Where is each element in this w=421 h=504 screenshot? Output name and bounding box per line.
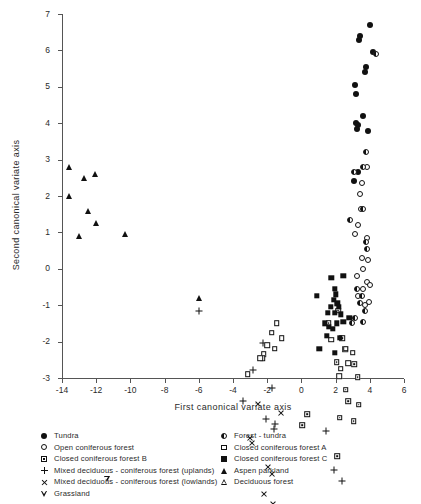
open-circle-icon bbox=[38, 443, 50, 452]
legend-item: Closed coniferous forest B bbox=[38, 453, 234, 465]
data-point bbox=[122, 231, 128, 237]
legend: TundraOpen coniferous forestClosed conif… bbox=[30, 430, 421, 504]
y-tick bbox=[58, 269, 62, 270]
data-point bbox=[338, 366, 344, 372]
data-point bbox=[373, 51, 379, 57]
x-tick-label: 4 bbox=[357, 386, 383, 395]
data-point bbox=[271, 420, 278, 427]
y-tick bbox=[58, 232, 62, 233]
data-point bbox=[346, 361, 352, 367]
data-point bbox=[337, 415, 343, 421]
y-tick bbox=[58, 123, 62, 124]
data-point bbox=[272, 346, 278, 352]
y-tick-label: 3 bbox=[28, 155, 50, 164]
data-points-layer bbox=[0, 0, 421, 323]
y-tick-label: -1 bbox=[28, 301, 50, 310]
y-tick-label: 6 bbox=[28, 46, 50, 55]
data-point bbox=[351, 419, 357, 425]
y-tick-label: 5 bbox=[28, 82, 50, 91]
data-point bbox=[85, 208, 91, 214]
data-point bbox=[274, 321, 280, 327]
data-point bbox=[245, 372, 251, 378]
data-point bbox=[336, 373, 342, 379]
data-point bbox=[353, 91, 359, 97]
open-tri-down-icon bbox=[38, 489, 50, 498]
y-tick-label: 2 bbox=[28, 192, 50, 201]
legend-item: Grassland bbox=[38, 488, 234, 500]
data-point bbox=[367, 282, 373, 288]
x-tick-label: -4 bbox=[220, 386, 246, 395]
legend-item-label: Tundra bbox=[54, 431, 79, 441]
x-tick bbox=[301, 379, 302, 383]
x-tick-label: -6 bbox=[186, 386, 212, 395]
x-tick-label: -10 bbox=[117, 386, 143, 395]
x-tick-label: 6 bbox=[391, 386, 417, 395]
data-point bbox=[357, 191, 363, 197]
legend-item-label: Mixed deciduous - coniferous forest (upl… bbox=[54, 466, 214, 476]
data-point bbox=[357, 300, 363, 306]
data-point bbox=[367, 22, 373, 28]
data-point bbox=[349, 320, 355, 326]
legend-item-label: Aspen parkland bbox=[234, 466, 289, 476]
data-point bbox=[350, 350, 356, 356]
legend-item: Forest - tundra bbox=[218, 430, 418, 442]
filled-tri-up-icon bbox=[218, 466, 230, 475]
legend-item: Closed coniferous forest C bbox=[218, 453, 418, 465]
data-point bbox=[341, 319, 346, 324]
legend-item: Aspen parkland bbox=[218, 465, 418, 477]
y-tick bbox=[58, 196, 62, 197]
legend-item-label: Grassland bbox=[54, 489, 90, 499]
y-tick bbox=[58, 342, 62, 343]
data-point bbox=[317, 346, 322, 351]
half-circle-icon bbox=[218, 431, 230, 440]
data-point bbox=[269, 330, 275, 336]
x-tick bbox=[404, 379, 405, 383]
data-point bbox=[351, 169, 357, 175]
legend-item: Mixed deciduous - coniferous forest (low… bbox=[38, 476, 234, 488]
legend-item-label: Forest - tundra bbox=[234, 431, 286, 441]
cross-icon bbox=[38, 478, 50, 487]
y-tick bbox=[58, 160, 62, 161]
y-tick bbox=[58, 50, 62, 51]
plus-icon bbox=[38, 466, 50, 475]
data-point bbox=[347, 217, 353, 223]
data-point bbox=[351, 178, 357, 184]
legend-item-label: Mixed deciduous - coniferous forest (low… bbox=[54, 477, 218, 487]
data-point bbox=[334, 359, 340, 365]
legend-item-label: Closed coniferous forest A bbox=[234, 443, 327, 453]
x-tick-label: -14 bbox=[49, 386, 75, 395]
y-tick-label: -3 bbox=[28, 374, 50, 383]
data-point bbox=[258, 355, 264, 361]
legend-column-right: Forest - tundraClosed coniferous forest … bbox=[218, 430, 418, 488]
x-tick bbox=[96, 379, 97, 383]
data-point bbox=[332, 310, 337, 315]
data-point bbox=[195, 307, 202, 314]
data-point bbox=[196, 295, 202, 301]
data-point bbox=[354, 273, 360, 279]
data-point bbox=[324, 333, 329, 338]
data-point bbox=[343, 387, 349, 393]
square-dot-icon bbox=[38, 454, 50, 463]
data-point bbox=[347, 315, 352, 320]
data-point bbox=[66, 164, 72, 170]
data-point bbox=[330, 326, 335, 331]
data-point bbox=[343, 346, 349, 352]
y-tick bbox=[58, 305, 62, 306]
data-point bbox=[352, 82, 358, 88]
legend-item-label: Closed coniferous forest B bbox=[54, 454, 147, 464]
x-tick-label: -12 bbox=[83, 386, 109, 395]
data-point bbox=[360, 266, 366, 272]
data-point bbox=[92, 171, 98, 177]
open-square-icon bbox=[218, 443, 230, 452]
data-point bbox=[363, 149, 369, 155]
legend-item: Closed coniferous forest A bbox=[218, 442, 418, 454]
legend-item: Open coniferous forest bbox=[38, 442, 234, 454]
filled-circle-icon bbox=[38, 431, 50, 440]
data-point bbox=[355, 374, 361, 380]
data-point bbox=[314, 293, 319, 298]
x-tick-label: 0 bbox=[288, 386, 314, 395]
legend-column-left: TundraOpen coniferous forestClosed conif… bbox=[38, 430, 234, 500]
y-tick bbox=[58, 14, 62, 15]
open-tri-up-icon bbox=[218, 478, 230, 487]
data-point bbox=[268, 385, 275, 392]
